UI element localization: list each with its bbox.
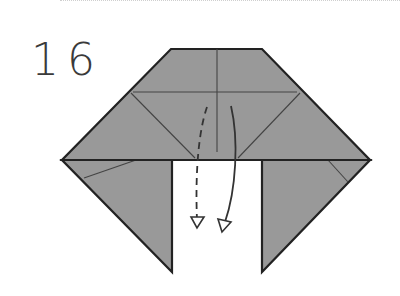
origami-diagram (0, 0, 400, 296)
left-flap (62, 160, 172, 272)
solid-arrowhead-icon (218, 219, 231, 232)
upper-body (62, 49, 370, 160)
right-flap (262, 160, 370, 272)
dashed-arrowhead-icon (191, 217, 204, 228)
